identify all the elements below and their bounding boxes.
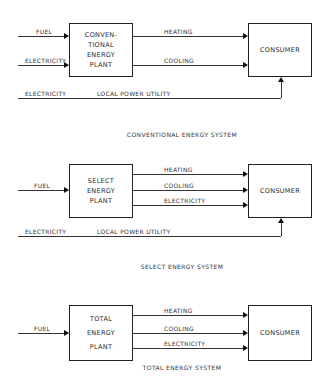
electricity-label: ELECTRICITY (164, 197, 205, 204)
plant-label-line: SELECT (88, 176, 114, 186)
utility-label: LOCAL POWER UTILITY (97, 90, 171, 97)
cooling-label: COOLING (164, 182, 194, 189)
heating-output-line (133, 36, 243, 37)
heating-output-line (133, 174, 243, 175)
select-energy-plant-box: SELECT ENERGY PLANT (69, 164, 133, 218)
arrow-up-icon (278, 77, 284, 82)
utility-riser-line (281, 221, 282, 236)
fuel-label: FUEL (34, 182, 50, 189)
consumer-box: CONSUMER (248, 23, 312, 77)
consumer-box: CONSUMER (248, 164, 312, 218)
plant-label-line: PLANT (90, 60, 112, 70)
electricity-output-line (133, 348, 243, 349)
fuel-input-line (18, 36, 68, 37)
heating-output-line (133, 315, 243, 316)
plant-label-line: CONVEN- (85, 30, 117, 40)
cooling-output-line (133, 333, 243, 334)
electricity-input-line (18, 65, 68, 66)
consumer-label: CONSUMER (260, 186, 300, 196)
electricity-label: ELECTRICITY (164, 340, 205, 347)
heating-label: HEATING (164, 307, 193, 314)
cooling-output-line (133, 65, 243, 66)
consumer-label: CONSUMER (260, 328, 300, 338)
plant-label-line: ENERGY (87, 50, 115, 60)
fuel-input-line (18, 190, 68, 191)
diagram-title: CONVENTIONAL ENERGY SYSTEM (82, 131, 282, 138)
plant-label-line: PLANT (90, 340, 112, 354)
electricity-output-line (133, 205, 243, 206)
diagram-title: SELECT ENERGY SYSTEM (82, 263, 282, 270)
cooling-output-line (133, 190, 243, 191)
utility-source-label: ELECTRICITY (25, 90, 66, 97)
electricity-label: ELECTRICITY (25, 57, 66, 64)
fuel-label: FUEL (34, 325, 50, 332)
cooling-label: COOLING (164, 57, 194, 64)
heating-label: HEATING (164, 166, 193, 173)
plant-label-line: TOTAL (90, 312, 112, 326)
plant-label-line: ENERGY (87, 326, 115, 340)
utility-line (18, 236, 281, 237)
plant-label-line: TIONAL (88, 40, 114, 50)
consumer-label: CONSUMER (260, 45, 300, 55)
utility-line (18, 98, 281, 99)
total-energy-plant-box: TOTAL ENERGY PLANT (69, 305, 133, 361)
fuel-label: FUEL (36, 28, 52, 35)
utility-source-label: ELECTRICITY (25, 228, 66, 235)
consumer-box: CONSUMER (248, 305, 312, 361)
plant-label-line: ENERGY (87, 186, 115, 196)
utility-riser-line (281, 80, 282, 98)
fuel-input-line (18, 333, 68, 334)
plant-label-line: PLANT (90, 196, 112, 206)
utility-label: LOCAL POWER UTILITY (97, 228, 171, 235)
diagram-title: TOTAL ENERGY SYSTEM (82, 364, 282, 371)
cooling-label: COOLING (164, 325, 194, 332)
heating-label: HEATING (164, 28, 193, 35)
arrow-up-icon (278, 218, 284, 223)
conventional-energy-plant-box: CONVEN- TIONAL ENERGY PLANT (69, 23, 133, 77)
